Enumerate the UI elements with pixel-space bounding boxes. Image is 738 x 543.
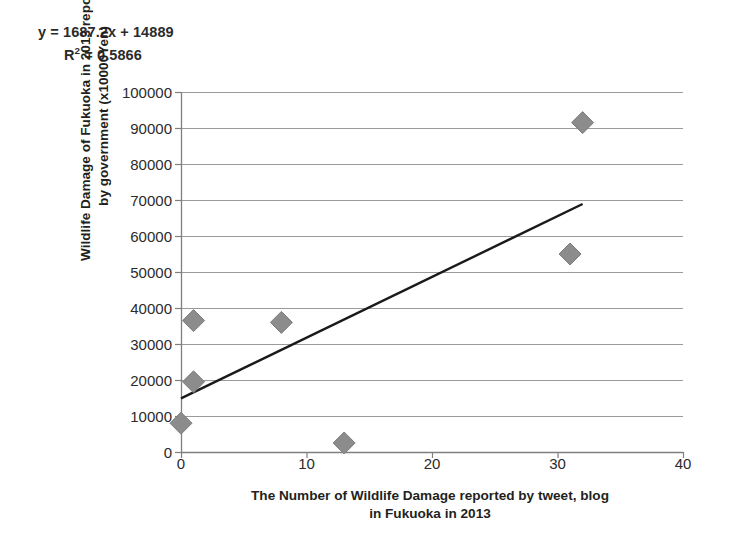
x-axis-tick-labels: 010203040 bbox=[0, 0, 738, 543]
scatter-chart-figure: y = 1687.2x + 14889 R2 = 0.5866 Wildlife… bbox=[0, 0, 738, 543]
x-axis-tick-label: 40 bbox=[675, 455, 692, 472]
x-axis-tick-label: 0 bbox=[177, 455, 185, 472]
x-axis-tick-label: 20 bbox=[424, 455, 441, 472]
x-axis-tick-label: 30 bbox=[549, 455, 566, 472]
x-axis-tick-label: 10 bbox=[298, 455, 315, 472]
